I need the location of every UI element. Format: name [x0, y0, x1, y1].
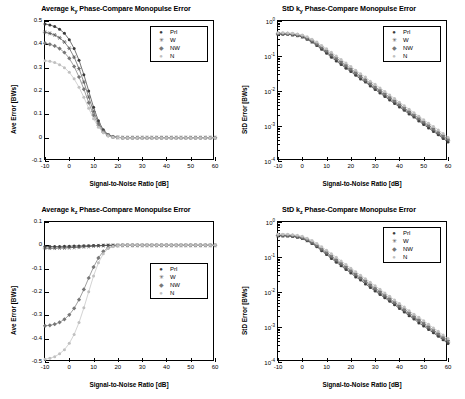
series-marker-N — [388, 295, 391, 298]
series-marker-N — [379, 288, 382, 291]
series-marker-N — [432, 125, 435, 128]
series-marker-N — [68, 71, 71, 74]
series-marker-N — [393, 97, 396, 100]
x-tick-label: -10 — [33, 364, 57, 370]
x-tick-label: 0 — [57, 364, 81, 370]
series-marker-NW — [53, 44, 57, 48]
series-marker-N — [102, 252, 105, 255]
series-marker-N — [277, 233, 280, 236]
x-tick-label: 60 — [436, 163, 460, 169]
series-marker-N — [447, 136, 450, 139]
series-marker-N — [388, 93, 391, 96]
y-tick-label: 10-4 — [243, 157, 275, 165]
series-marker-N — [296, 234, 299, 237]
y-tick-label: 10-4 — [243, 358, 275, 366]
series-marker-N — [136, 136, 139, 139]
series-marker-N — [170, 244, 173, 247]
series-marker-N — [87, 290, 90, 293]
series-marker-N — [325, 47, 328, 50]
series-marker-N — [306, 237, 309, 240]
series-marker-N — [345, 62, 348, 65]
series-marker-N — [301, 33, 304, 36]
series-marker-NW — [77, 75, 81, 79]
series-marker-N — [48, 60, 51, 63]
series-marker-N — [199, 136, 202, 139]
series-marker-N — [58, 352, 61, 355]
series-marker-N — [359, 72, 362, 75]
x-tick-label: 30 — [130, 163, 154, 169]
y-tick-mark — [278, 362, 282, 363]
series-marker-Prl — [73, 47, 76, 50]
series-marker-N — [209, 244, 212, 247]
y-tick-label: -0.3 — [10, 311, 42, 317]
x-tick-mark — [448, 157, 449, 161]
x-tick-label: 60 — [203, 364, 227, 370]
figure-canvas: Average ky Phase-Compare Monopulse Error… — [0, 0, 465, 399]
series-marker-N — [146, 244, 149, 247]
series-marker-N — [150, 244, 153, 247]
series-marker-N — [63, 348, 66, 351]
y-tick-label: -0.1 — [10, 157, 42, 163]
series-marker-N — [349, 267, 352, 270]
series-marker-N — [437, 330, 440, 333]
panel-title-top-left: Average ky Phase-Compare Monopulse Error — [0, 4, 232, 14]
series-marker-N — [112, 245, 115, 248]
x-tick-label: 40 — [154, 364, 178, 370]
series-marker-N — [92, 117, 95, 120]
series-marker-N — [131, 136, 134, 139]
y-tick-label: 0.2 — [10, 87, 42, 93]
series-marker-W — [67, 46, 71, 50]
y-tick-label: 0.1 — [10, 110, 42, 116]
series-layer — [45, 222, 215, 362]
series-marker-N — [141, 244, 144, 247]
series-marker-N — [82, 96, 85, 99]
series-marker-N — [286, 233, 289, 236]
series-marker-N — [199, 244, 202, 247]
series-marker-N — [281, 31, 284, 34]
y-tick-label: -0.2 — [10, 288, 42, 294]
series-marker-N — [175, 244, 178, 247]
series-marker-N — [345, 263, 348, 266]
series-marker-N — [116, 244, 119, 247]
x-tick-label: 30 — [130, 364, 154, 370]
series-marker-N — [116, 136, 119, 139]
y-tick-label: 100 — [243, 17, 275, 25]
series-marker-Prl — [78, 59, 81, 62]
series-marker-N — [184, 244, 187, 247]
x-tick-label: 50 — [179, 364, 203, 370]
series-marker-NW — [53, 322, 57, 326]
series-marker-NW — [57, 320, 61, 324]
series-marker-N — [447, 337, 450, 340]
series-marker-N — [126, 136, 129, 139]
panel-title-top-right: StD ky Phase-Compare Monopulse Error — [233, 4, 465, 14]
title-text-bottom-right: StD kz Phase-Compare Monopulse Error — [282, 205, 416, 214]
x-tick-label: 0 — [290, 364, 314, 370]
x-tick-label: 10 — [315, 364, 339, 370]
series-marker-N — [432, 326, 435, 329]
series-marker-N — [165, 244, 168, 247]
series-marker-N — [58, 63, 61, 66]
series-marker-N — [379, 86, 382, 89]
series-marker-N — [63, 66, 66, 69]
series-marker-N — [330, 51, 333, 54]
series-marker-N — [112, 136, 115, 139]
series-marker-N — [422, 319, 425, 322]
y-tick-mark — [45, 161, 49, 162]
series-marker-N — [82, 306, 85, 309]
series-marker-N — [301, 235, 304, 238]
y-tick-label: 10-2 — [243, 87, 275, 95]
series-marker-W — [72, 55, 76, 59]
x-axis-label-top-right: Signal-to-Noise Ratio [dB] — [277, 180, 447, 187]
x-tick-label: 40 — [154, 163, 178, 169]
series-marker-N — [209, 136, 212, 139]
series-line-N — [45, 245, 215, 359]
series-marker-N — [126, 244, 129, 247]
series-marker-N — [437, 128, 440, 131]
panel-bottom-right: StD kz Phase-Compare Monopulse Error Sig… — [233, 205, 465, 395]
series-marker-NW — [82, 287, 86, 291]
series-marker-N — [97, 126, 100, 129]
x-tick-label: 10 — [82, 163, 106, 169]
y-tick-label: 0.4 — [10, 40, 42, 46]
panel-title-bottom-left: Average kz Phase-Compare Monopulse Error — [0, 205, 232, 215]
series-marker-N — [403, 104, 406, 107]
